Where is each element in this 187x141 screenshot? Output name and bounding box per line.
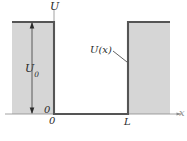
potential-function-label-arg: (x) <box>98 44 111 55</box>
potential-well-figure: U U0 U(x) 0 0 L x <box>0 0 187 141</box>
potential-callout-leader-line <box>113 51 127 62</box>
barrier-height-label-base: U <box>25 62 34 75</box>
horizontal-axis-label: x <box>179 108 185 118</box>
barrier-height-label-subscript: 0 <box>34 70 39 79</box>
potential-function-label: U(x) <box>90 45 112 55</box>
horizontal-origin-label: 0 <box>49 116 55 126</box>
vertical-axis-label: U <box>50 1 59 12</box>
vertical-origin-label: 0 <box>44 105 50 115</box>
right-barrier-shading <box>128 22 170 114</box>
well-width-label: L <box>124 117 131 127</box>
barrier-height-label: U0 <box>25 63 39 77</box>
